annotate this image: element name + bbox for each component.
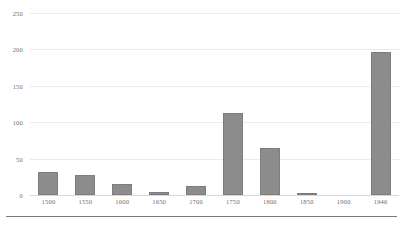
x-axis-tick-label: 1500: [30, 197, 67, 211]
y-axis-tick-label: 100: [13, 119, 23, 126]
bar-slot: [30, 13, 67, 195]
y-axis-tick-label: 250: [13, 10, 23, 17]
bar: [38, 172, 58, 195]
bar-slot: [251, 13, 288, 195]
bar: [186, 186, 206, 195]
x-axis-tick-label: 1600: [104, 197, 141, 211]
bar: [297, 193, 317, 195]
x-axis-tick-label: 1550: [67, 197, 104, 211]
bar: [112, 184, 132, 195]
bar-chart-figure: 050100150200250 150015501600165017001750…: [0, 0, 403, 227]
bar: [260, 148, 280, 195]
x-axis-tick-label: 1850: [288, 197, 325, 211]
chart-title: [0, 0, 403, 1]
y-axis: 050100150200250: [0, 13, 27, 195]
x-axis-tick-label: 1800: [251, 197, 288, 211]
bar-slot: [325, 13, 362, 195]
x-axis-tick-label: 1946: [362, 197, 399, 211]
x-axis: 1500155016001650170017501800185019001946: [30, 197, 399, 211]
bar-slot: [141, 13, 178, 195]
bottom-rule-divider: [6, 216, 397, 217]
bar-slot: [178, 13, 215, 195]
gridline: [30, 195, 399, 196]
x-axis-tick-label: 1700: [178, 197, 215, 211]
y-axis-tick-label: 0: [20, 192, 23, 199]
bar: [75, 175, 95, 195]
bar-slot: [362, 13, 399, 195]
x-axis-tick-label: 1650: [141, 197, 178, 211]
y-axis-tick-label: 50: [16, 155, 23, 162]
y-axis-tick-label: 200: [13, 46, 23, 53]
bar: [371, 52, 391, 195]
bar-slot: [215, 13, 252, 195]
y-axis-tick-label: 150: [13, 82, 23, 89]
x-axis-tick-label: 1900: [325, 197, 362, 211]
bar: [223, 113, 243, 195]
bar-slot: [104, 13, 141, 195]
bar: [149, 192, 169, 195]
bar-slot: [67, 13, 104, 195]
bar-series: [30, 13, 399, 195]
bar-slot: [288, 13, 325, 195]
x-axis-tick-label: 1750: [215, 197, 252, 211]
